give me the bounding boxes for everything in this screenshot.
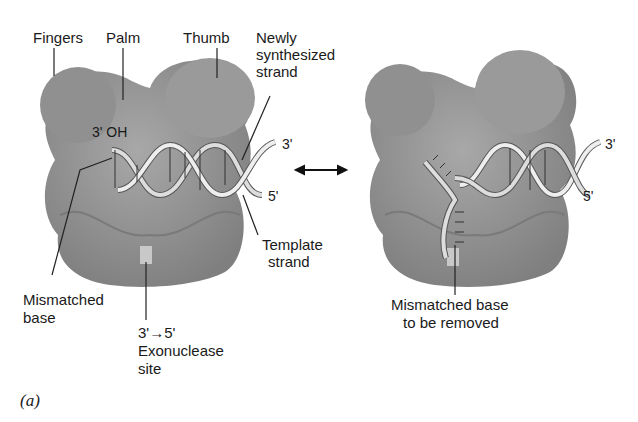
label-left-3prime: 3': [282, 136, 292, 153]
panel-label: (a): [20, 392, 40, 409]
label-exo-3: site: [138, 360, 161, 377]
label-right-5prime: 5': [583, 188, 593, 205]
diagram-canvas: [0, 0, 638, 422]
label-newly-1: Newly: [256, 29, 297, 46]
label-removed-1: Mismatched base: [391, 296, 509, 313]
label-newly-3: strand: [256, 63, 298, 80]
label-mismatched-1: Mismatched: [23, 291, 104, 308]
exonuclease-site-marker: [140, 246, 152, 264]
label-removed-2: to be removed: [403, 314, 499, 331]
label-3-oh: 3' OH: [92, 124, 127, 141]
equilibrium-arrow: [296, 166, 346, 174]
label-right-3prime: 3': [605, 136, 615, 153]
label-template-1: Template: [262, 236, 323, 253]
label-exo-2: Exonuclease: [138, 342, 224, 359]
label-fingers: Fingers: [33, 29, 83, 46]
label-palm: Palm: [106, 29, 140, 46]
label-template-2: strand: [268, 253, 310, 270]
label-thumb: Thumb: [183, 29, 230, 46]
label-mismatched-2: base: [23, 309, 56, 326]
left-polymerase: [40, 58, 255, 287]
label-newly-2: synthesized: [256, 46, 335, 63]
label-exo-1: 3'→5': [138, 324, 175, 341]
label-left-5prime: 5': [268, 188, 278, 205]
